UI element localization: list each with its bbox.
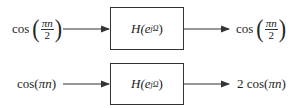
input-func: cos	[12, 21, 29, 37]
input-fraction: πn 2	[41, 18, 54, 41]
output-func: cos	[236, 21, 253, 37]
row2-input-signal: cos(πn)	[17, 75, 56, 93]
row1-input-signal: cos ( πn 2 )	[12, 14, 62, 44]
output-fraction: πn 2	[265, 18, 278, 41]
system-block-1: H(ejΩ)	[110, 7, 184, 50]
system-block-2: H(ejΩ)	[110, 63, 184, 105]
row2-output-signal: 2 cos(πn)	[237, 75, 286, 93]
row1-output-signal: cos ( πn 2 )	[236, 14, 286, 44]
